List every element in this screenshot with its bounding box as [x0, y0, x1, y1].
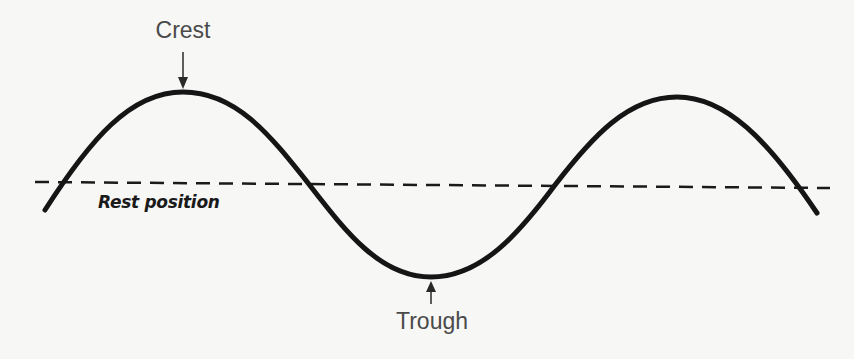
- crest-arrow-icon: [178, 52, 188, 89]
- trough-arrow-icon: [426, 281, 436, 304]
- rest-position-label: Rest position: [98, 192, 220, 212]
- crest-label: Crest: [150, 17, 216, 44]
- trough-label: Trough: [388, 308, 476, 335]
- rest-position-line: [35, 182, 830, 188]
- wave-diagram: [0, 0, 854, 359]
